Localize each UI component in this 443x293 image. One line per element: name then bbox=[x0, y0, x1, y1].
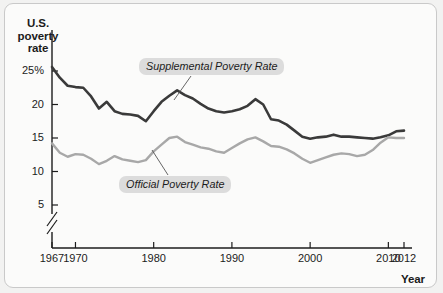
leader-line-official bbox=[152, 150, 168, 175]
poverty-rate-chart-figure: U.S. poverty rate Year 25%2015105 196719… bbox=[0, 0, 443, 293]
y-tick-label: 5 bbox=[10, 198, 44, 210]
series-line-official bbox=[52, 137, 404, 164]
x-axis-title: Year bbox=[401, 273, 425, 285]
x-tick-label: 2000 bbox=[295, 252, 325, 264]
tick-marks bbox=[52, 71, 404, 248]
series-line-supplemental bbox=[52, 67, 404, 139]
y-tick-label: 20 bbox=[10, 98, 44, 110]
series-lines bbox=[52, 67, 404, 164]
x-tick-label: 1980 bbox=[139, 252, 169, 264]
axis-break-slash-lower bbox=[47, 220, 57, 234]
leader-lines bbox=[152, 76, 191, 175]
series-label-official: Official Poverty Rate bbox=[119, 176, 231, 193]
y-tick-label: 10 bbox=[10, 165, 44, 177]
x-tick-label: 2012 bbox=[389, 252, 419, 264]
y-tick-label: 25% bbox=[10, 64, 44, 76]
series-label-supplemental: Supplemental Poverty Rate bbox=[139, 58, 284, 75]
chart-plot-area bbox=[0, 0, 443, 293]
y-axis-title: U.S. poverty rate bbox=[14, 17, 62, 55]
y-tick-label: 15 bbox=[10, 131, 44, 143]
x-tick-label: 1990 bbox=[217, 252, 247, 264]
axis-break-slash-upper bbox=[47, 212, 57, 226]
x-tick-label: 1970 bbox=[60, 252, 90, 264]
